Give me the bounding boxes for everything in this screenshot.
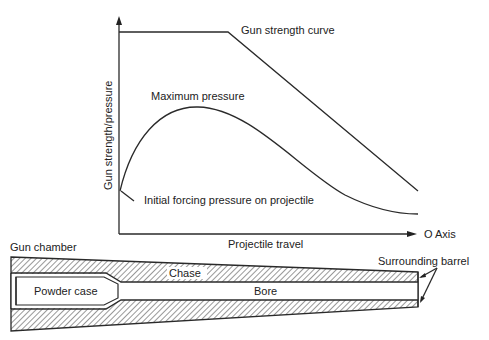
gun-strength-curve (119, 32, 418, 191)
powder-case-label: Powder case (34, 285, 98, 297)
bore-label: Bore (254, 285, 277, 297)
initial-forcing-leader (121, 191, 134, 201)
chase-label: Chase (169, 267, 201, 279)
surrounding-barrel-label: Surrounding barrel (378, 255, 469, 267)
y-axis-label: Gun strength/pressure (102, 81, 114, 190)
x-axis-end-label: O Axis (424, 228, 456, 240)
maximum-pressure-label: Maximum pressure (151, 90, 245, 102)
x-axis-label: Projectile travel (228, 238, 303, 250)
initial-forcing-label: Initial forcing pressure on projectile (144, 194, 314, 206)
gun-strength-label: Gun strength curve (241, 24, 335, 36)
gun-pressure-diagram: Gun strength curve Maximum pressure Init… (0, 0, 489, 340)
y-axis-arrow-icon (116, 16, 122, 25)
x-axis-arrow-icon (407, 231, 417, 237)
gun-chamber-label: Gun chamber (10, 241, 77, 253)
